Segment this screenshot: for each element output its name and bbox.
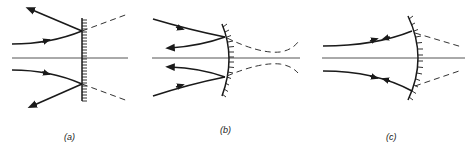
- incident-ray-lower: [153, 77, 225, 96]
- incident-ray-upper: [153, 19, 225, 37]
- virtual-ray-upper: [82, 14, 128, 31]
- virtual-ray-lower: [82, 84, 128, 101]
- arrow-icon: [385, 80, 390, 82]
- arrow-icon: [370, 40, 375, 42]
- reflected-ray-upper: [30, 9, 82, 31]
- panel-label-c: (c): [386, 132, 397, 142]
- panel-label-b: (b): [220, 125, 231, 135]
- mirror-hatching: [222, 24, 234, 97]
- reflected-ray-lower: [170, 67, 225, 77]
- virtual-ray-upper: [415, 33, 462, 47]
- arrow-icon: [176, 86, 181, 88]
- incident-ray-lower: [12, 70, 82, 84]
- reflected-ray-upper: [170, 37, 225, 48]
- incident-ray-lower: [323, 71, 412, 91]
- incident-ray-upper: [12, 31, 82, 44]
- panel-c: [322, 16, 465, 100]
- panel-a: [12, 9, 128, 106]
- arrow-icon: [42, 72, 47, 74]
- reflected-ray-lower: [32, 84, 82, 106]
- panel-b: [152, 19, 300, 97]
- mirror-beam-diagram: [0, 0, 474, 150]
- virtual-ray-lower: [415, 70, 462, 86]
- virtual-ray-upper: [227, 38, 298, 52]
- panel-label-a: (a): [64, 132, 75, 142]
- incident-ray-upper: [323, 31, 412, 46]
- virtual-ray-lower: [227, 64, 298, 76]
- convex-mirror: [222, 24, 229, 96]
